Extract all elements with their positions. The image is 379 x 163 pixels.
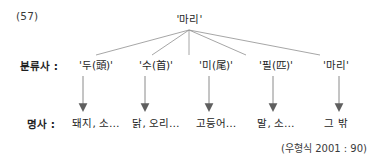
branch-line-5 [189, 30, 320, 55]
noun-node-1: 돼지, 소… [66, 116, 126, 132]
noun-row: 돼지, 소… 닭, 오리… 고등어… 말, 소… 그 밖 [66, 116, 366, 132]
classifier-node-1: '두(頭)' [66, 58, 126, 74]
classifier-node-3: '미(尾)' [186, 58, 246, 74]
noun-node-4: 말, 소… [246, 116, 306, 132]
branch-line-2 [152, 30, 189, 55]
noun-node-5: 그 밖 [306, 116, 366, 132]
row-label-classifier: 분류사 : [20, 58, 58, 73]
classifier-node-4: '필(匹)' [246, 58, 306, 74]
row-label-noun: 명사 : [27, 116, 55, 131]
classifier-row: '두(頭)' '수(首)' '미(尾)' '필(匹)' '마리' [66, 58, 366, 74]
figure-container: (57) '마리' 분류사 : '두(頭)' '수(首)' [0, 0, 379, 163]
noun-node-2: 닭, 오리… [126, 116, 186, 132]
tree-connectors [0, 0, 379, 163]
branch-line-1 [96, 30, 189, 55]
branch-line-4 [189, 30, 246, 55]
source-citation: (우형식 2001 : 90) [281, 140, 367, 155]
arrow-head-1 [79, 103, 88, 112]
arrow-heads [79, 103, 344, 112]
arrow-head-4 [269, 103, 278, 112]
noun-node-3: 고등어… [186, 116, 246, 132]
branch-lines [96, 30, 320, 55]
arrow-head-5 [335, 103, 344, 112]
arrow-shafts [83, 76, 339, 104]
classifier-node-2: '수(首)' [126, 58, 186, 74]
arrow-head-2 [141, 103, 150, 112]
arrow-head-3 [205, 103, 214, 112]
classifier-node-5: '마리' [306, 58, 366, 74]
